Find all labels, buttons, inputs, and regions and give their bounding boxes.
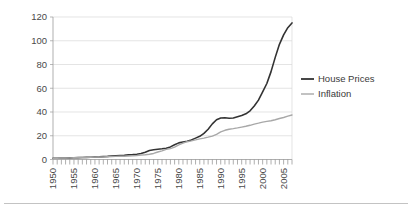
y-axis-tick-label: 100	[31, 35, 47, 46]
x-axis-tick-label: 1975	[152, 168, 163, 189]
x-axis-tick-label: 1990	[215, 168, 226, 189]
y-axis-tick-label: 60	[36, 83, 47, 94]
y-axis-tick-label: 120	[31, 11, 47, 22]
y-axis-tick-label: 80	[36, 59, 47, 70]
x-minor-ticks-group	[53, 160, 292, 165]
legend-label-house-prices: House Prices	[318, 73, 375, 84]
y-axis-tick-label: 0	[42, 154, 47, 165]
x-axis-tick-label: 2000	[257, 168, 268, 189]
chart-container: 020406080100120 195019551960196519701975…	[0, 0, 412, 213]
y-axis-labels-group: 020406080100120	[31, 11, 47, 165]
x-axis-tick-label: 1970	[131, 168, 142, 189]
chart-legend: House PricesInflation	[301, 73, 375, 99]
series-line-house-prices	[53, 23, 292, 158]
x-axis-tick-label: 1960	[89, 168, 100, 189]
x-axis-labels-group: 1950195519601965197019751980198519901995…	[47, 168, 289, 189]
x-axis-tick-label: 1995	[236, 168, 247, 189]
x-axis-tick-label: 1985	[194, 168, 205, 189]
x-axis-tick-label: 1950	[47, 168, 58, 189]
line-chart: 020406080100120 195019551960196519701975…	[0, 0, 412, 213]
gridlines-group	[53, 17, 292, 136]
x-axis-tick-label: 2005	[278, 168, 289, 189]
x-axis-tick-label: 1980	[173, 168, 184, 189]
y-axis-tick-label: 20	[36, 130, 47, 141]
x-axis-tick-label: 1965	[110, 168, 121, 189]
series-group	[53, 23, 292, 158]
x-axis-tick-label: 1955	[68, 168, 79, 189]
legend-label-inflation: Inflation	[318, 88, 351, 99]
y-axis-tick-label: 40	[36, 106, 47, 117]
series-line-inflation	[53, 115, 292, 158]
